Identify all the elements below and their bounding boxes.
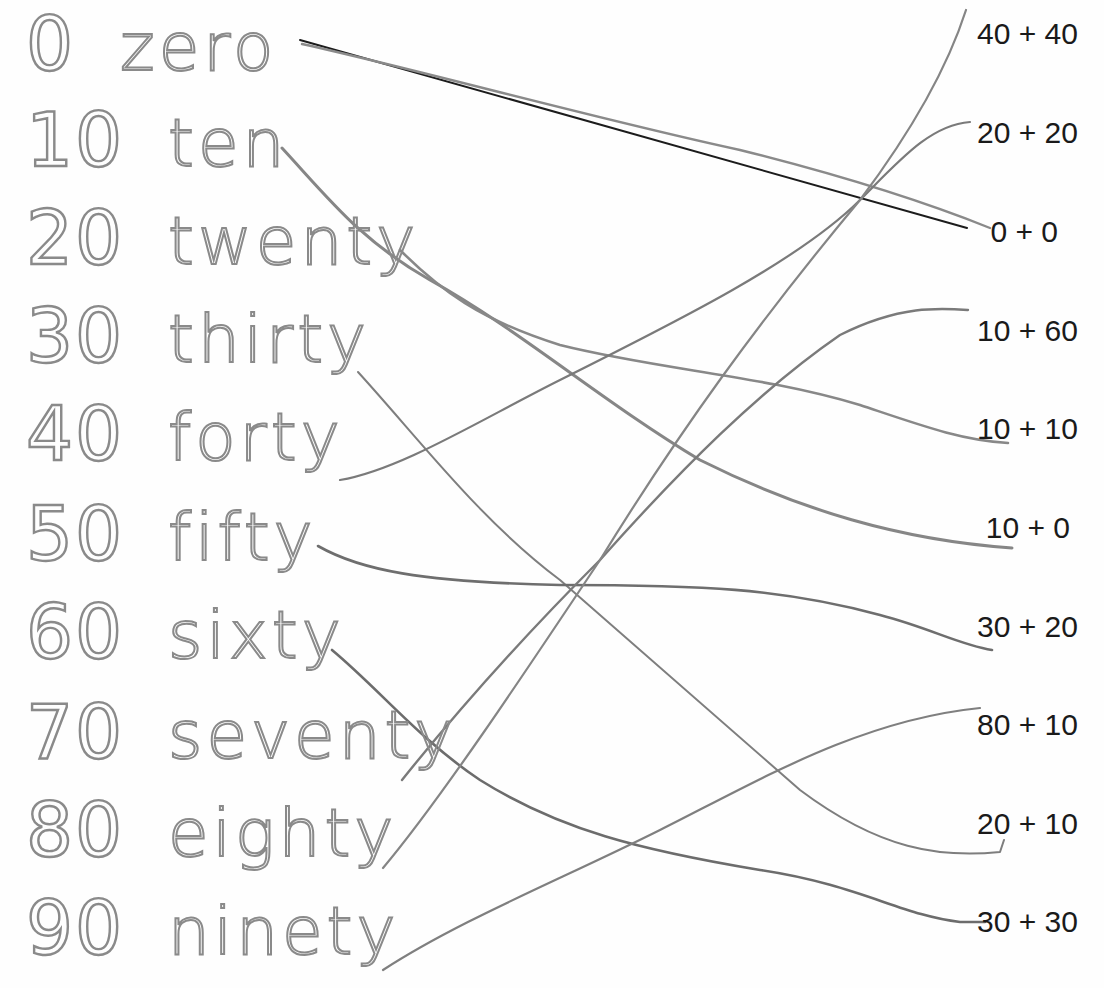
- traced-word: zero: [120, 12, 277, 84]
- expression-20-plus-20: 20 + 20: [977, 115, 1078, 151]
- traced-word: seventy: [168, 700, 457, 772]
- numeral: 10: [26, 100, 124, 180]
- expression-10-plus-10: 10 + 10: [977, 411, 1078, 447]
- expression-80-plus-10: 80 + 10: [977, 707, 1078, 743]
- expression-0-plus-0: 0 + 0: [990, 214, 1058, 250]
- traced-word: ninety: [168, 896, 400, 968]
- left-item-thirty: 30 thirty: [0, 296, 440, 392]
- line-thirty-to-20plus10: [358, 372, 1004, 854]
- traced-word: twenty: [168, 206, 419, 278]
- traced-word: sixty: [168, 600, 345, 672]
- expression-10-plus-60: 10 + 60: [977, 313, 1078, 349]
- matching-worksheet: 0 zero 10 ten 20 twenty 30 thirty 40 for…: [0, 0, 1104, 988]
- numeral: 80: [26, 790, 124, 870]
- left-item-zero: 0 zero: [0, 4, 440, 100]
- expression-30-plus-20: 30 + 20: [977, 609, 1078, 645]
- line-ninety-to-80plus10: [383, 708, 980, 970]
- left-item-forty: 40 forty: [0, 394, 440, 490]
- numeral: 50: [26, 494, 124, 574]
- expression-40-plus-40: 40 + 40: [977, 16, 1078, 52]
- traced-word: eighty: [168, 798, 397, 870]
- numeral: 40: [26, 394, 124, 474]
- numeral: 30: [26, 296, 124, 376]
- traced-word: ten: [168, 108, 288, 180]
- left-item-twenty: 20 twenty: [0, 198, 440, 294]
- line-eighty-to-40plus40: [383, 10, 966, 868]
- left-item-fifty: 50 fifty: [0, 494, 440, 590]
- numeral: 70: [26, 692, 124, 772]
- expression-30-plus-30: 30 + 30: [977, 904, 1078, 940]
- left-item-ten: 10 ten: [0, 100, 440, 196]
- left-item-eighty: 80 eighty: [0, 790, 440, 886]
- line-seventy-to-10plus60: [402, 309, 968, 780]
- left-item-sixty: 60 sixty: [0, 592, 440, 688]
- numeral: 0: [26, 4, 75, 84]
- numeral: 90: [26, 888, 124, 968]
- traced-word: thirty: [168, 304, 370, 376]
- line-twenty-to-10plus10: [400, 250, 1008, 443]
- traced-word: forty: [168, 402, 344, 474]
- numeral: 20: [26, 198, 124, 278]
- numeral: 60: [26, 592, 124, 672]
- expression-10-plus-0: 10 + 0: [986, 510, 1070, 546]
- left-item-ninety: 90 ninety: [0, 888, 440, 984]
- traced-word: fifty: [168, 502, 317, 574]
- expression-20-plus-10: 20 + 10: [977, 806, 1078, 842]
- left-item-seventy: 70 seventy: [0, 692, 440, 788]
